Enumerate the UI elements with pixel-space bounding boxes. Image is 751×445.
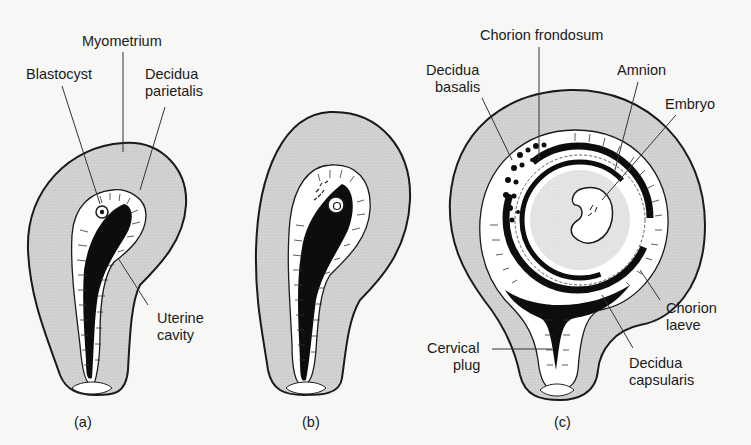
label-line: Uterine xyxy=(157,310,204,327)
label-line: Decidua xyxy=(426,62,480,79)
label-line: Myometrium xyxy=(82,33,162,50)
label-myometrium: Myometrium xyxy=(82,33,162,50)
caption-a: (a) xyxy=(74,414,92,430)
panel-b-uterus xyxy=(256,112,410,395)
label-line: capsularis xyxy=(629,372,694,389)
label-line: Blastocyst xyxy=(26,66,92,83)
label-line: basalis xyxy=(426,79,480,96)
label-cervical-plug: Cervical plug xyxy=(427,340,480,374)
label-line: Cervical xyxy=(427,340,480,357)
label-line: plug xyxy=(427,357,480,374)
label-blastocyst: Blastocyst xyxy=(26,66,92,83)
label-line: cavity xyxy=(157,327,204,344)
label-decidua-basalis: Decidua basalis xyxy=(426,62,480,96)
label-decidua-parietalis: Decidua parietalis xyxy=(145,66,203,100)
caption-c: (c) xyxy=(554,414,571,430)
panel-c-uterus xyxy=(450,90,705,400)
label-amnion: Amnion xyxy=(617,62,666,79)
label-line: Chorion xyxy=(666,300,717,317)
label-line: parietalis xyxy=(145,83,203,100)
label-line: Decidua xyxy=(145,66,203,83)
label-line: Embryo xyxy=(665,96,715,113)
label-embryo: Embryo xyxy=(665,96,715,113)
label-chorion-laeve: Chorion laeve xyxy=(666,300,717,334)
panel-a-uterus xyxy=(28,143,186,395)
label-line: Decidua xyxy=(629,355,694,372)
implanted-blastocyst xyxy=(328,197,344,213)
label-uterine-cavity: Uterine cavity xyxy=(157,310,204,344)
label-chorion-frondosum: Chorion frondosum xyxy=(480,27,603,44)
caption-b: (b) xyxy=(302,414,320,430)
label-line: Amnion xyxy=(617,62,666,79)
label-line: laeve xyxy=(666,317,717,334)
label-decidua-capsularis: Decidua capsularis xyxy=(629,355,694,389)
label-line: Chorion frondosum xyxy=(480,27,603,44)
